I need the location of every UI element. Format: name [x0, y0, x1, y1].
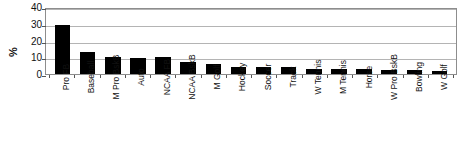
y-axis-tick-labels: 403020100	[14, 0, 42, 151]
x-axis-label-w-golf: W Golf	[440, 64, 449, 90]
bar-slot	[276, 9, 301, 74]
x-label-slot: Baseball	[74, 77, 99, 151]
y-tick-label-10: 10	[20, 53, 42, 63]
y-tick-label-40: 40	[20, 3, 42, 13]
x-axis-label-ncaa-bskb: NCAA BskB	[188, 54, 197, 99]
y-tick-label-0: 0	[20, 70, 42, 80]
x-label-slot: Track	[276, 77, 301, 151]
x-axis-label-w-tennis: W Tennis	[314, 60, 323, 95]
x-axis-label-m-pro-bskb: M Pro BskB	[112, 55, 121, 100]
x-label-slot: NCAA FB	[150, 77, 175, 151]
x-label-slot: W Golf	[428, 77, 453, 151]
x-label-slot: NCAA BskB	[175, 77, 200, 151]
x-label-slot: Soccer	[251, 77, 276, 151]
bar-slot	[125, 9, 150, 74]
x-label-slot: Horse	[352, 77, 377, 151]
x-axis-label-track: Track	[289, 67, 298, 88]
x-axis-label-hockey: Hockey	[238, 63, 247, 91]
bar-slot	[352, 9, 377, 74]
x-axis-label-m-tennis: M Tennis	[339, 60, 348, 94]
x-label-slot: W Tennis	[302, 77, 327, 151]
x-axis-category-labels: Pro FBBaseballM Pro BskBAutoNCAA FBNCAA …	[45, 77, 457, 151]
x-axis-label-w-pro-bskb: W Pro BskB	[390, 54, 399, 100]
x-label-slot: W Pro BskB	[377, 77, 402, 151]
x-axis-label-horse: Horse	[365, 66, 374, 89]
x-label-slot: Pro FB	[49, 77, 74, 151]
x-axis-label-m-golf: M Golf	[213, 64, 222, 89]
y-tick-label-30: 30	[20, 20, 42, 30]
x-axis-label-auto: Auto	[137, 68, 146, 86]
x-axis-label-bowling: Bowling	[415, 62, 424, 92]
x-label-slot: Bowling	[403, 77, 428, 151]
x-axis-label-baseball: Baseball	[87, 61, 96, 94]
bar-chart: % 403020100 Pro FBBaseballM Pro BskBAuto…	[0, 0, 463, 151]
y-tick-label-20: 20	[20, 37, 42, 47]
x-label-slot: M Golf	[201, 77, 226, 151]
x-label-slot: Hockey	[226, 77, 251, 151]
x-axis-label-soccer: Soccer	[264, 64, 273, 90]
x-label-slot: M Tennis	[327, 77, 352, 151]
x-label-slot: Auto	[125, 77, 150, 151]
x-axis-label-pro-fb: Pro FB	[62, 64, 71, 90]
x-axis-label-ncaa-fb: NCAA FB	[163, 59, 172, 95]
x-label-slot: M Pro BskB	[100, 77, 125, 151]
